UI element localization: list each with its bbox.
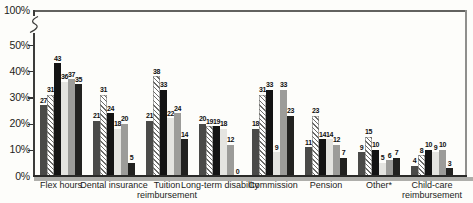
bar-black-solid: 14 bbox=[319, 139, 326, 176]
bar-group: 21312418205 bbox=[93, 10, 135, 176]
y-axis-tick-label: 0% bbox=[0, 171, 30, 182]
bar-value-label: 33 bbox=[160, 81, 167, 88]
category-label: Child-care reimbursement bbox=[392, 181, 472, 200]
bar-near-black-solid: 14 bbox=[181, 139, 188, 176]
bar-value-label: 9 bbox=[434, 144, 438, 151]
bar-value-label: 10 bbox=[439, 141, 446, 148]
bar-black-solid: 10 bbox=[425, 150, 432, 176]
bar-value-label: 43 bbox=[54, 55, 61, 62]
bar-value-label: 12 bbox=[227, 136, 234, 143]
bar-black-solid: 43 bbox=[54, 63, 61, 176]
bar-dark-gray-solid: 27 bbox=[40, 105, 47, 176]
bar-value-label: 11 bbox=[305, 139, 312, 146]
bar-dark-gray-solid: 21 bbox=[93, 121, 100, 176]
bar-group: 11231414127 bbox=[305, 10, 347, 176]
y-axis-tick-mark bbox=[28, 124, 33, 125]
bar-value-label: 4 bbox=[413, 157, 417, 164]
bar-value-label: 31 bbox=[100, 86, 107, 93]
benefits-bar-chart: 2731433637352131241820521383322241420191… bbox=[0, 0, 473, 203]
bar-value-label: 0 bbox=[236, 168, 240, 175]
axis-break-icon bbox=[26, 16, 42, 33]
y-axis-tick-mark bbox=[28, 71, 33, 72]
bar-value-label: 9 bbox=[275, 144, 279, 151]
y-axis-tick-label: 100% bbox=[0, 5, 30, 16]
bar-value-label: 35 bbox=[75, 76, 82, 83]
bar-group: 48109103 bbox=[411, 10, 453, 176]
bar-value-label: 3 bbox=[448, 160, 452, 167]
bar-value-label: 15 bbox=[365, 128, 372, 135]
bar-medium-gray-solid: 24 bbox=[174, 113, 181, 176]
bar-medium-gray-solid: 20 bbox=[121, 124, 128, 176]
bar-near-black-solid: 7 bbox=[393, 158, 400, 176]
bar-value-label: 7 bbox=[342, 149, 346, 156]
bar-diagonal-hatch: 38 bbox=[153, 76, 160, 176]
bar-value-label: 14 bbox=[181, 131, 188, 138]
bar-group: 273143363735 bbox=[40, 10, 82, 176]
y-axis-tick-label: 10% bbox=[0, 144, 30, 155]
bar-value-label: 5 bbox=[381, 154, 385, 161]
bar-dark-gray-solid: 11 bbox=[305, 147, 312, 176]
bar-value-label: 18 bbox=[220, 120, 227, 127]
bar-near-black-solid: 7 bbox=[340, 158, 347, 176]
bar-value-label: 20 bbox=[121, 115, 128, 122]
bar-value-label: 24 bbox=[107, 105, 114, 112]
bar-medium-gray-solid: 6 bbox=[386, 160, 393, 176]
bar-value-label: 38 bbox=[153, 68, 160, 75]
bar-dark-gray-solid: 18 bbox=[252, 129, 259, 176]
bar-medium-gray-solid: 37 bbox=[68, 79, 75, 176]
y-axis-tick-label: 30% bbox=[0, 92, 30, 103]
bar-value-label: 8 bbox=[420, 147, 424, 154]
bar-light-gray-solid: 9 bbox=[273, 152, 280, 176]
bar-black-solid: 33 bbox=[160, 90, 167, 176]
bar-value-label: 12 bbox=[333, 136, 340, 143]
bar-light-gray-solid: 9 bbox=[432, 152, 439, 176]
bar-value-label: 5 bbox=[130, 154, 134, 161]
bar-value-label: 33 bbox=[266, 81, 273, 88]
bars-area: 2731433637352131241820521383322241420191… bbox=[33, 10, 466, 176]
y-axis-tick-mark bbox=[28, 45, 33, 46]
bar-black-solid: 33 bbox=[266, 90, 273, 176]
bar-diagonal-hatch: 8 bbox=[418, 155, 425, 176]
category-labels-row: Flex hoursDental insuranceTuition reimbu… bbox=[33, 181, 466, 201]
category-label-cell: Child-care reimbursement bbox=[411, 181, 453, 201]
bar-light-gray-solid: 22 bbox=[167, 118, 174, 176]
bar-diagonal-hatch: 31 bbox=[47, 95, 54, 176]
bar-group: 213833222414 bbox=[146, 10, 188, 176]
bar-value-label: 33 bbox=[280, 81, 287, 88]
bar-medium-gray-solid: 10 bbox=[439, 150, 446, 176]
bar-medium-gray-solid: 12 bbox=[333, 145, 340, 176]
bar-dark-gray-solid: 9 bbox=[358, 152, 365, 176]
bar-value-label: 23 bbox=[287, 107, 294, 114]
bar-value-label: 23 bbox=[312, 107, 319, 114]
bar-light-gray-solid: 14 bbox=[326, 139, 333, 176]
y-axis-tick-label: 50% bbox=[0, 40, 30, 51]
bar-value-label: 10 bbox=[425, 141, 432, 148]
bar-black-solid: 19 bbox=[213, 126, 220, 176]
bar-light-gray-solid: 36 bbox=[61, 82, 68, 176]
bar-group: 18313393323 bbox=[252, 10, 294, 176]
bar-group: 91510567 bbox=[358, 10, 400, 176]
y-axis-tick-mark bbox=[28, 150, 33, 151]
bar-value-label: 6 bbox=[388, 152, 392, 159]
bar-diagonal-hatch: 31 bbox=[259, 95, 266, 176]
bar-diagonal-hatch: 19 bbox=[206, 126, 213, 176]
bar-value-label: 7 bbox=[395, 149, 399, 156]
bar-group: 20191918120 bbox=[199, 10, 241, 176]
bar-light-gray-solid: 18 bbox=[114, 129, 121, 176]
y-axis-tick-label: 40% bbox=[0, 66, 30, 77]
bar-diagonal-hatch: 23 bbox=[312, 116, 319, 176]
bar-dark-gray-solid: 20 bbox=[199, 124, 206, 176]
y-axis-tick-label: 20% bbox=[0, 118, 30, 129]
bar-black-solid: 10 bbox=[372, 150, 379, 176]
bar-medium-gray-solid: 12 bbox=[227, 145, 234, 176]
bar-medium-gray-solid: 33 bbox=[280, 90, 287, 176]
bar-value-label: 9 bbox=[360, 144, 364, 151]
bar-value-label: 10 bbox=[372, 141, 379, 148]
bar-value-label: 24 bbox=[174, 105, 181, 112]
bar-near-black-solid: 23 bbox=[287, 116, 294, 176]
y-axis-tick-mark bbox=[28, 97, 33, 98]
bar-near-black-solid: 35 bbox=[75, 84, 82, 176]
bar-dark-gray-solid: 21 bbox=[146, 121, 153, 176]
y-axis-line bbox=[33, 10, 35, 176]
